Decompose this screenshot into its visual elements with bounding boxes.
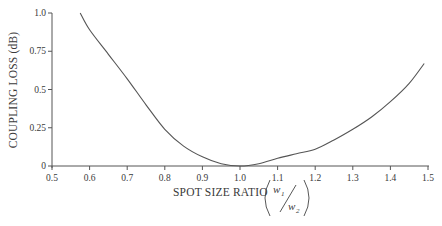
x-tick-label: 0.7 <box>121 173 133 183</box>
coupling-loss-chart: 00.250.50.751.0 0.50.60.70.80.91.01.11.2… <box>0 0 442 226</box>
right-paren <box>304 180 309 216</box>
x-axis-ticks: 0.50.60.70.80.91.01.11.21.31.41.5 <box>46 166 434 183</box>
x-axis-title: SPOT SIZE RATIO <box>173 186 268 198</box>
x-tick-label: 1.4 <box>384 173 396 183</box>
fraction-numerator-sub: 1 <box>281 190 285 198</box>
spot-size-ratio-fraction: w 1 w 2 <box>265 180 309 216</box>
x-tick-label: 0.9 <box>196 173 208 183</box>
x-tick-label: 1.3 <box>347 173 359 183</box>
y-tick-label: 0.5 <box>34 85 46 95</box>
fraction-denominator-sub: 2 <box>296 207 300 215</box>
y-tick-label: 0.25 <box>29 123 46 133</box>
x-tick-label: 1.0 <box>234 173 246 183</box>
coupling-loss-curve <box>80 13 424 166</box>
x-tick-label: 1.1 <box>272 173 284 183</box>
axes <box>52 13 429 168</box>
fraction-numerator: w <box>273 183 281 195</box>
x-tick-label: 0.8 <box>159 173 171 183</box>
x-tick-label: 0.5 <box>46 173 58 183</box>
y-tick-label: 1.0 <box>34 8 46 18</box>
y-tick-label: 0 <box>41 161 46 171</box>
x-tick-label: 0.6 <box>84 173 96 183</box>
fraction-denominator: w <box>288 200 296 212</box>
y-axis-ticks: 00.250.50.751.0 <box>29 8 52 171</box>
x-tick-label: 1.5 <box>422 173 434 183</box>
y-tick-label: 0.75 <box>29 46 46 56</box>
y-axis-title: COUPLING LOSS (dB) <box>7 32 20 149</box>
x-tick-label: 1.2 <box>309 173 321 183</box>
